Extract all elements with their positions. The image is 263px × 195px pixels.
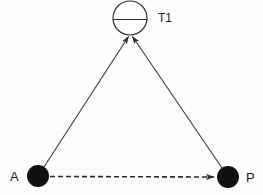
sight-line-a-to-t1	[44, 37, 129, 168]
baseline-a-to-p	[50, 177, 214, 178]
node-t1	[113, 1, 147, 35]
sight-line-p-to-t1	[133, 37, 223, 169]
instrument-circle-icon	[113, 1, 147, 35]
node-label-p: P	[246, 170, 255, 185]
diagram-canvas: T1 A P	[0, 0, 263, 195]
node-a-dot	[27, 165, 49, 187]
node-label-t1: T1	[158, 11, 172, 25]
node-label-a: A	[10, 169, 19, 184]
survey-diagram: T1 A P	[0, 0, 263, 195]
node-p-dot	[217, 166, 239, 188]
